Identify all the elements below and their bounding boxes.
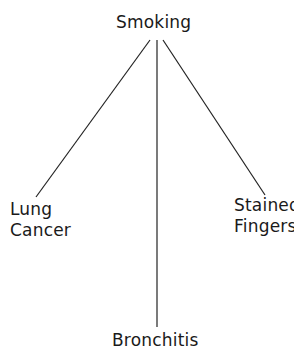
edges-layer (0, 0, 294, 359)
edge-smoking-stained-fingers (163, 40, 265, 195)
node-bronchitis: Bronchitis (112, 330, 199, 351)
node-smoking: Smoking (116, 12, 191, 33)
node-label: Bronchitis (112, 330, 199, 350)
node-label: Smoking (116, 12, 191, 32)
edge-smoking-lung-cancer (36, 40, 150, 197)
node-lung-cancer: Lung Cancer (10, 199, 71, 241)
node-stained-fingers: Stained Fingers (234, 195, 294, 237)
node-label-line-1: Lung (10, 199, 71, 220)
node-label-line-2: Fingers (234, 216, 294, 237)
node-label-line-1: Stained (234, 195, 294, 216)
node-label-line-2: Cancer (10, 220, 71, 241)
